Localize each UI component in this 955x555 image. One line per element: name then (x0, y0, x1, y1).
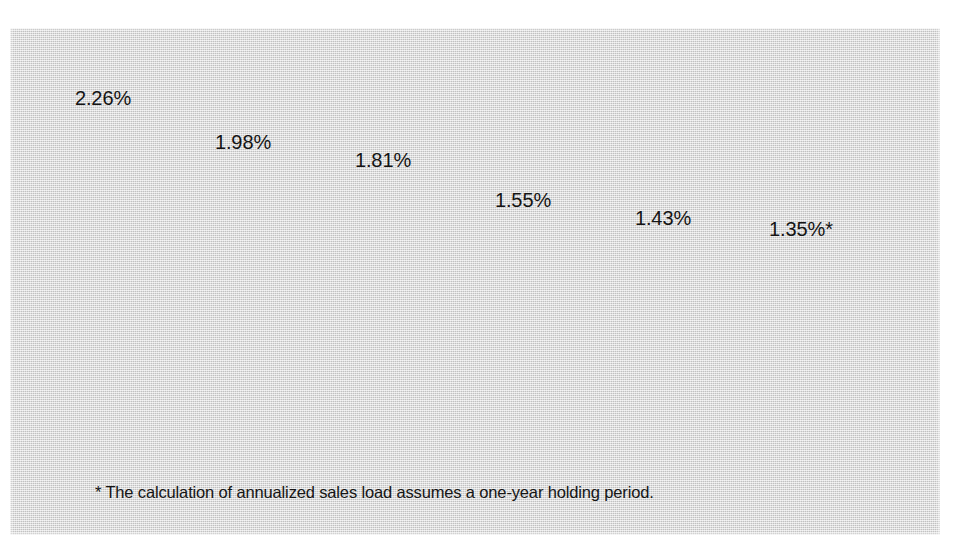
bar-value-label: 2.26% (75, 87, 131, 110)
bar-value-label: 1.35%* (769, 218, 833, 241)
chart-panel: 2.26% 1980 1.98% 1985 1.81% 1990 1.55% 1… (10, 28, 940, 535)
chart-figure: 2.26% 1980 1.98% 1985 1.81% 1990 1.55% 1… (0, 0, 955, 555)
bar-value-label: 1.98% (215, 131, 271, 154)
plot-area: 2.26% 1980 1.98% 1985 1.81% 1990 1.55% 1… (10, 28, 940, 535)
footnote: * The calculation of annualized sales lo… (95, 483, 654, 502)
bar-value-label: 1.43% (635, 207, 691, 230)
bar-value-label: 1.55% (495, 189, 551, 212)
bar-value-label: 1.81% (355, 149, 411, 172)
